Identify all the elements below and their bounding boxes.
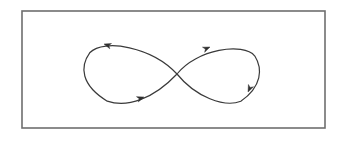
bounding-rectangle — [22, 11, 325, 128]
figure-container — [0, 0, 341, 144]
figure-eight-diagram — [0, 0, 341, 144]
